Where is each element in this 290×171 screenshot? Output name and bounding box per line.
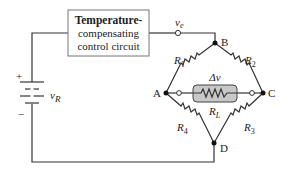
- plus-sign: +: [16, 70, 22, 82]
- node-d-dot: [212, 141, 217, 146]
- r2-label: R2: [244, 54, 256, 69]
- node-b-label: B: [221, 36, 228, 48]
- vr-label: vR: [50, 89, 61, 104]
- rl-label: RL: [208, 105, 221, 120]
- node-b-dot: [213, 41, 218, 46]
- bridge-circuit-diagram: Temperature- compensating control circui…: [0, 0, 290, 171]
- box-line2: compensating: [78, 27, 140, 39]
- wire-ve-to-b: [181, 33, 215, 43]
- ve-label: ve: [175, 16, 184, 30]
- delta-v-label: Δv: [208, 71, 220, 83]
- load-terminal-left: [177, 91, 182, 96]
- node-a-dot: [164, 91, 169, 96]
- minus-sign: −: [18, 108, 24, 120]
- ve-terminal: [175, 30, 180, 35]
- node-c-label: C: [268, 87, 275, 99]
- r3-label: R3: [243, 121, 255, 136]
- r4-label: R4: [176, 121, 188, 136]
- node-a-label: A: [153, 87, 161, 99]
- box-line3: control circuit: [77, 40, 139, 52]
- wire-source-to-box: [32, 33, 68, 82]
- box-line1: Temperature-: [75, 14, 143, 27]
- node-c-dot: [261, 91, 266, 96]
- node-d-label: D: [220, 142, 228, 154]
- load-terminal-right: [250, 91, 255, 96]
